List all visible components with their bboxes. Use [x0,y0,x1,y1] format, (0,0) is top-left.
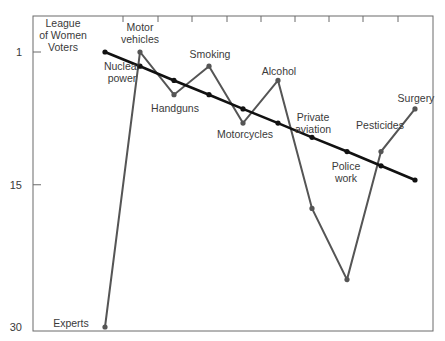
league-marker [240,106,245,111]
league-marker [275,121,280,126]
plot-frame [33,16,433,331]
league-marker [344,149,349,154]
league-marker [309,135,314,140]
league-marker [412,177,417,182]
hazard-label: Smoking [190,48,231,60]
hazard-label: Policework [332,160,361,184]
hazard-label: Alcohol [262,65,296,77]
plot-border [33,16,433,331]
y-axis: 11530 [10,46,41,333]
hazard-label: Pesticides [356,119,404,131]
experts-marker [344,277,349,282]
y-tick-label: 30 [10,321,22,333]
experts-marker [206,64,211,69]
hazard-label: Privateaviation [295,111,331,135]
league-marker [378,163,383,168]
experts-marker [275,78,280,83]
experts-marker [137,49,142,54]
experts-marker [412,106,417,111]
series-lines [102,49,417,329]
league-marker [206,92,211,97]
experts-marker [240,121,245,126]
hazard-label: Motorcycles [217,128,273,140]
league-marker [171,78,176,83]
hazard-label: Surgery [398,92,436,104]
experts-marker [171,92,176,97]
hazard-label: Handguns [151,102,199,114]
risk-ranking-chart: 11530 Leagueof WomenVotersExpertsNuclear… [0,0,445,341]
experts-marker [378,149,383,154]
y-tick-label: 1 [16,46,22,58]
y-tick-label: 15 [10,179,22,191]
league-marker [102,49,107,54]
league-line [105,52,415,180]
series-label-experts: Experts [53,317,89,329]
hazard-label: Nuclearpower [104,60,141,84]
experts-marker [102,324,107,329]
hazard-label: Motorvehicles [121,21,159,45]
experts-line [105,52,415,327]
series-label-league: Leagueof WomenVoters [39,17,87,53]
experts-marker [309,206,314,211]
